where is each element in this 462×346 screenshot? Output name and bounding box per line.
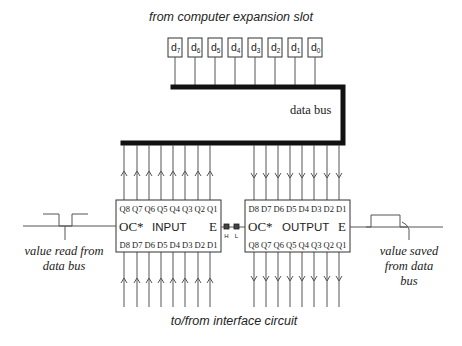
- data-line-d4: d4: [228, 38, 242, 87]
- data-line-d7: d7: [168, 38, 182, 87]
- input-chip-name: INPUT: [152, 221, 187, 233]
- data-line-d5: d5: [208, 38, 222, 87]
- switch-low-terminal: [234, 224, 239, 229]
- input-chip-enable-label: E: [209, 219, 217, 234]
- switch-high-label: H: [224, 233, 228, 239]
- save-caption-line2: from data: [385, 259, 434, 273]
- title-bottom: to/from interface circuit: [171, 314, 298, 328]
- data-line-d6: d6: [188, 38, 202, 87]
- save-caption-line1: value saved: [380, 244, 439, 258]
- output-chip-name: OUTPUT: [282, 221, 329, 233]
- save-caption-line3: bus: [400, 274, 418, 288]
- latch-interface-diagram: from computer expansion slot d7d6d5d4d3d…: [0, 0, 462, 346]
- data-line-d0: d0: [308, 38, 322, 87]
- switch-low-label: L: [235, 233, 239, 239]
- output-chip-top-pins: D8 D7 D6 D5 D4 D3 D2 D1: [249, 204, 347, 214]
- data-bus-label: data bus: [290, 103, 331, 117]
- input-chip-bottom-pins: D8 D7 D6 D5 D4 D3 D2 D1: [120, 240, 218, 250]
- input-chip-top-pins: Q8 Q7 Q6 Q5 Q4 Q3 Q2 Q1: [120, 204, 218, 214]
- save-waveform: value saved from data bus: [350, 215, 443, 288]
- input-chip-oc-label: OC*: [119, 219, 144, 234]
- data-line-d3: d3: [248, 38, 262, 87]
- read-caption-line1: value read from: [25, 244, 104, 258]
- read-waveform: value read from data bus: [23, 214, 116, 273]
- output-chip-bottom-pins: Q8 Q7 Q6 Q5 Q4 Q3 Q2 Q1: [249, 240, 347, 250]
- output-chip-oc-label: OC*: [248, 219, 273, 234]
- read-caption-line2: data bus: [43, 259, 86, 273]
- input-chip: Q8 Q7 Q6 Q5 Q4 Q3 Q2 Q1 OC* INPUT E D8 D…: [116, 200, 221, 252]
- output-chip: D8 D7 D6 D5 D4 D3 D2 D1 OC* OUTPUT E Q8 …: [245, 200, 350, 252]
- title-top: from computer expansion slot: [149, 10, 313, 24]
- switch-high-terminal: [224, 224, 229, 229]
- output-chip-enable-label: E: [338, 219, 346, 234]
- data-line-d2: d2: [268, 38, 282, 87]
- data-line-d1: d1: [288, 38, 302, 87]
- hl-switch: H L: [221, 224, 245, 239]
- expansion-slot-data-lines: d7d6d5d4d3d2d1d0: [168, 38, 322, 87]
